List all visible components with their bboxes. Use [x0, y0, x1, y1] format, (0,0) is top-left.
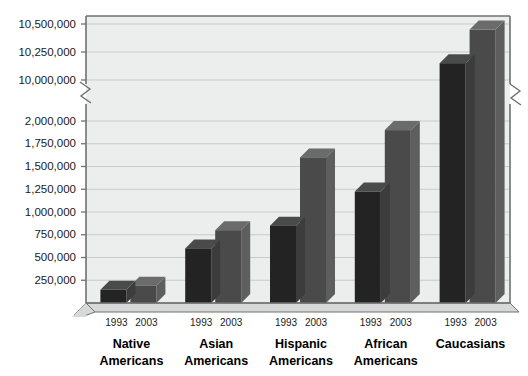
bar-chart-figure: 10,500,00010,250,00010,000,0002,000,0001… — [0, 0, 528, 376]
bar-2003 — [215, 221, 250, 303]
x-year-label: 1993 — [190, 317, 213, 328]
y-tick-label: 750,000 — [34, 228, 76, 240]
bar-1993 — [440, 54, 475, 303]
x-year-label: 2003 — [135, 317, 158, 328]
y-tick-label: 1,250,000 — [25, 183, 76, 195]
bar-2003 — [130, 277, 165, 303]
x-category-label: African — [364, 337, 407, 351]
y-tick-label: 1,500,000 — [25, 160, 76, 172]
bar-2003 — [300, 148, 335, 303]
x-year-label: 1993 — [275, 317, 298, 328]
bar-1993 — [355, 183, 390, 303]
x-year-label: 2003 — [474, 317, 497, 328]
y-tick-label: 2,000,000 — [25, 115, 76, 127]
x-category-label: Native — [113, 337, 151, 351]
x-category-label: Hispanic — [275, 337, 327, 351]
y-tick-label: 500,000 — [34, 251, 76, 263]
bar-2003 — [470, 21, 505, 303]
bar-1993 — [185, 239, 220, 303]
chart-canvas: 10,500,00010,250,00010,000,0002,000,0001… — [0, 0, 528, 376]
y-tick-label: 10,000,000 — [18, 74, 76, 86]
x-year-label: 1993 — [360, 317, 383, 328]
y-tick-label: 250,000 — [34, 274, 76, 286]
x-year-label: 1993 — [444, 317, 467, 328]
x-category-label: Americans — [99, 354, 163, 368]
x-category-label: Asian — [199, 337, 233, 351]
x-category-label: Americans — [354, 354, 418, 368]
x-year-label: 1993 — [105, 317, 128, 328]
x-year-label: 2003 — [390, 317, 413, 328]
x-category-label: Caucasians — [436, 337, 506, 351]
bar-1993 — [270, 217, 305, 303]
y-tick-label: 1,000,000 — [25, 206, 76, 218]
y-tick-label: 10,250,000 — [18, 46, 76, 58]
x-category-label: Americans — [184, 354, 248, 368]
y-tick-label: 10,500,000 — [18, 18, 76, 30]
y-tick-label: 1,750,000 — [25, 137, 76, 149]
x-category-label: Americans — [269, 354, 333, 368]
x-year-label: 2003 — [305, 317, 328, 328]
x-year-label: 2003 — [220, 317, 243, 328]
bar-2003 — [385, 121, 420, 303]
